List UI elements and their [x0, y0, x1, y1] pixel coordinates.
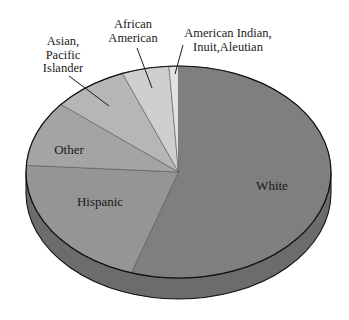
- label-other: Other: [54, 142, 84, 157]
- label-american-indian-inuit-aleutian: American Indian,Inuit,Aleutian: [184, 26, 271, 54]
- label-african-american: AfricanAmerican: [108, 17, 158, 45]
- label-asian-pacific-islander: Asian,PacificIslander: [43, 34, 84, 75]
- pie-chart: WhiteHispanicOtherAsian,PacificIslanderA…: [0, 0, 349, 320]
- label-white: White: [256, 178, 288, 193]
- label-hispanic: Hispanic: [77, 194, 123, 209]
- pie-top-face: [26, 66, 331, 278]
